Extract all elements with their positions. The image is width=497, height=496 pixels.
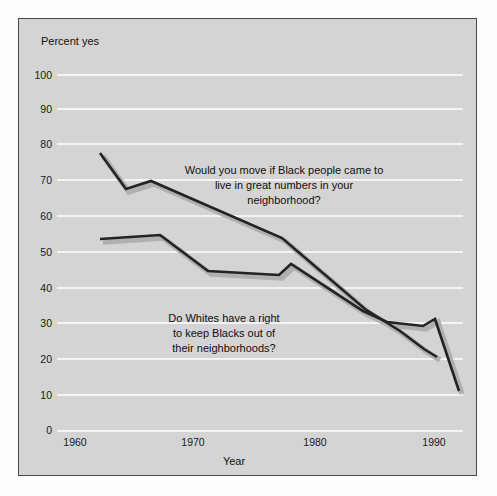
y-tick-50: 50 <box>40 246 52 258</box>
line-chart: Percent yes 100 90 80 70 60 50 40 30 20 … <box>19 19 478 477</box>
y-tick-90: 90 <box>40 103 52 115</box>
y-tick-labels: 100 90 80 70 60 50 40 30 20 10 0 <box>34 69 52 436</box>
y-tick-80: 80 <box>40 138 52 150</box>
y-tick-70: 70 <box>40 174 52 186</box>
y-tick-30: 30 <box>40 317 52 329</box>
y-tick-40: 40 <box>40 282 52 294</box>
x-tick-1980: 1980 <box>303 436 327 448</box>
annotation-upper-line-3: neighborhood? <box>247 194 320 206</box>
annotation-upper: Would you move if Black people came to l… <box>185 164 384 206</box>
y-tick-10: 10 <box>40 389 52 401</box>
annotation-lower-line-3: their neighborhoods? <box>172 342 275 354</box>
y-tick-60: 60 <box>40 210 52 222</box>
annotation-upper-line-2: live in great numbers in your <box>215 179 354 191</box>
series-shadow-keep-out <box>103 238 462 394</box>
annotation-lower-line-1: Do Whites have a right <box>168 312 279 324</box>
x-tick-1960: 1960 <box>63 436 87 448</box>
x-tick-1990: 1990 <box>422 436 446 448</box>
y-axis-title: Percent yes <box>41 35 100 47</box>
annotation-lower: Do Whites have a right to keep Blacks ou… <box>168 312 279 354</box>
x-tick-1970: 1970 <box>181 436 205 448</box>
y-tick-20: 20 <box>40 353 52 365</box>
y-tick-0: 0 <box>46 424 52 436</box>
y-tick-100: 100 <box>34 69 52 81</box>
x-tick-labels: 1960 1970 1980 1990 <box>63 436 446 448</box>
gridlines <box>57 75 463 431</box>
figure-frame: Percent yes 100 90 80 70 60 50 40 30 20 … <box>18 18 477 476</box>
chart-page: Percent yes 100 90 80 70 60 50 40 30 20 … <box>0 0 497 496</box>
annotation-lower-line-2: to keep Blacks out of <box>173 327 276 339</box>
x-axis-title: Year <box>223 455 246 467</box>
annotation-upper-line-1: Would you move if Black people came to <box>185 164 384 176</box>
